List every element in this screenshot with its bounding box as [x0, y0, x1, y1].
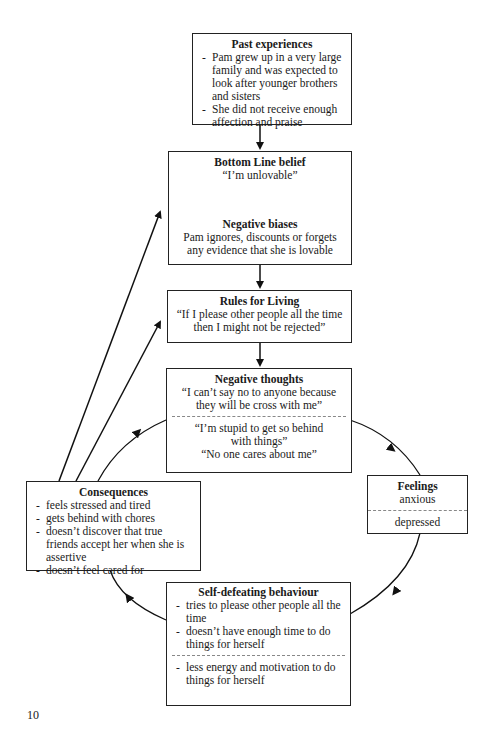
list-item: Pam grew up in a very large family and w… [198, 51, 346, 103]
rules-title: Rules for Living [173, 295, 346, 308]
consequences-list: feels stressed and tired gets behind wit… [32, 499, 195, 577]
dashed-divider [368, 510, 467, 511]
self-defeating-list-2: less energy and motivation to do things … [172, 661, 345, 687]
list-item: feels stressed and tired [32, 499, 195, 512]
rules-for-living-box: Rules for Living “If I please other peop… [167, 290, 352, 343]
past-experiences-list: Pam grew up in a very large family and w… [198, 51, 346, 129]
rules-quote: “If I please other people all the time t… [173, 308, 346, 334]
self-defeating-title: Self-defeating behaviour [172, 586, 345, 599]
consequences-box: Consequences feels stressed and tired ge… [26, 481, 201, 571]
negative-thoughts-title: Negative thoughts [172, 373, 346, 386]
negative-thought-2: “I’m stupid to get so behind with things… [172, 422, 346, 448]
list-item: doesn’t discover that true friends accep… [32, 525, 195, 564]
negative-thought-3: “No one cares about me” [172, 448, 346, 461]
negative-biases-title: Negative biases [174, 218, 346, 231]
negative-thoughts-box: Negative thoughts “I can’t say no to any… [166, 368, 352, 473]
bottom-line-quote: “I’m unlovable” [174, 169, 346, 182]
bottom-line-title: Bottom Line belief [174, 156, 346, 169]
bidirectional-arrows-space [174, 182, 346, 218]
past-experiences-box: Past experiences Pam grew up in a very l… [192, 33, 352, 125]
list-item: She did not receive enough affection and… [198, 103, 346, 129]
list-item: less energy and motivation to do things … [172, 661, 345, 687]
dashed-divider [172, 416, 346, 417]
feelings-title: Feelings [368, 480, 467, 493]
self-defeating-list: tries to please other people all the tim… [172, 599, 345, 651]
consequences-title: Consequences [32, 486, 195, 499]
list-item: doesn’t have enough time to do things fo… [172, 625, 345, 651]
feelings-box: Feelings anxious depressed [367, 475, 468, 534]
list-item: tries to please other people all the tim… [172, 599, 345, 625]
page-number: 10 [27, 708, 39, 723]
negative-biases-text: Pam ignores, discounts or forgets any ev… [174, 231, 346, 257]
self-defeating-behaviour-box: Self-defeating behaviour tries to please… [166, 582, 351, 706]
dashed-divider [172, 655, 345, 656]
bottom-line-belief-box: Bottom Line belief “I’m unlovable” Negat… [168, 151, 352, 265]
feeling-depressed: depressed [368, 516, 467, 529]
list-item: gets behind with chores [32, 512, 195, 525]
past-experiences-title: Past experiences [198, 38, 346, 51]
feeling-anxious: anxious [368, 493, 467, 506]
list-item: doesn’t feel cared for [32, 564, 195, 577]
negative-thought-1: “I can’t say no to anyone because they w… [172, 386, 346, 412]
